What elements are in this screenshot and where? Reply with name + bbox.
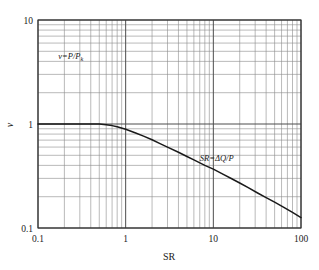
figure-background	[0, 0, 319, 270]
x-tick-label: 1	[123, 234, 128, 244]
annotation-sr-definition: SR=ΔQ/P	[200, 153, 234, 163]
y-tick-label: 10	[24, 16, 34, 26]
y-tick-label: 1	[28, 120, 33, 130]
y-axis-title: v	[4, 122, 15, 127]
x-tick-label: 100	[294, 234, 309, 244]
y-tick-label: 0.1	[21, 224, 33, 234]
chart-figure: 0.1110100 0.1110 SR v v=P/PkSR=ΔQ/P	[0, 0, 319, 270]
x-axis-title: SR	[163, 251, 176, 262]
annotation-v-definition: v=P/Pk	[58, 51, 83, 62]
x-tick-label: 0.1	[32, 234, 44, 244]
log-log-plot: 0.1110100 0.1110 SR v v=P/PkSR=ΔQ/P	[0, 0, 319, 270]
x-tick-label: 10	[209, 234, 219, 244]
